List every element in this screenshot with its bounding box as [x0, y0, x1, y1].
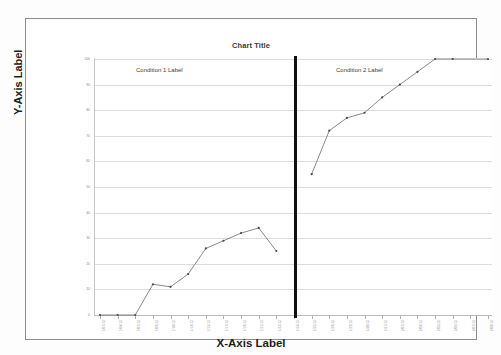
data-point-marker: [275, 250, 277, 252]
data-point-marker: [346, 117, 348, 119]
x-tick-label: 1/15/13: [207, 320, 211, 331]
data-point-marker: [222, 240, 224, 242]
data-point-marker: [187, 273, 189, 275]
x-tick-mark: [241, 316, 242, 319]
x-tick-label: 1/17/13: [225, 320, 229, 331]
data-point-marker: [152, 283, 154, 285]
y-tick-label: 90: [60, 83, 90, 87]
x-tick-label: 1/01/13: [102, 320, 106, 331]
x-tick-mark: [153, 316, 154, 319]
x-tick-mark: [470, 316, 471, 319]
y-tick-label: 70: [60, 134, 90, 138]
y-tick-label: 50: [60, 185, 90, 189]
plot-area: 0102030405060708090100 1/01/131/04/131/0…: [94, 58, 492, 316]
data-point-marker: [99, 314, 101, 316]
chart-page: Chart Title 0102030405060708090100 1/01/…: [0, 0, 501, 355]
x-tick-mark: [223, 316, 224, 319]
x-tick-label: 1/18/13: [243, 320, 247, 331]
x-tick-mark: [400, 316, 401, 319]
x-tick-label: 1/23/13: [278, 320, 282, 331]
x-tick-mark: [171, 316, 172, 319]
x-tick-label: 1/29/13: [349, 320, 353, 331]
x-tick-label: 1/21/13: [260, 320, 264, 331]
x-tick-label: 1/09/13: [155, 320, 159, 331]
x-tick-mark: [100, 316, 101, 319]
data-point-marker: [134, 314, 136, 316]
condition-1-label: Condition 1 Label: [136, 67, 183, 73]
x-tick-label: 2/07/13: [472, 320, 476, 331]
x-tick-mark: [206, 316, 207, 319]
x-tick-mark: [259, 316, 260, 319]
condition-2-label: Condition 2 Label: [336, 67, 383, 73]
y-tick-label: 100: [60, 57, 90, 61]
x-tick-label: 1/25/13: [313, 320, 317, 331]
x-tick-mark: [453, 316, 454, 319]
x-tick-label: 1/28/13: [331, 320, 335, 331]
y-tick-label: 80: [60, 108, 90, 112]
data-point-marker: [169, 286, 171, 288]
x-tick-label: 2/04/13: [419, 320, 423, 331]
x-tick-label: 1/10/13: [172, 320, 176, 331]
x-tick-label: 1/24/13: [296, 320, 300, 331]
data-point-marker: [328, 130, 330, 132]
y-tick-label: 30: [60, 236, 90, 240]
x-tick-mark: [382, 316, 383, 319]
y-tick-label: 40: [60, 211, 90, 215]
data-point-marker: [117, 314, 119, 316]
data-point-marker: [258, 227, 260, 229]
x-tick-mark: [488, 316, 489, 319]
chart-frame: Chart Title 0102030405060708090100 1/01/…: [25, 18, 477, 340]
x-tick-label: 2/01/13: [401, 320, 405, 331]
series-line: [100, 228, 276, 315]
x-tick-label: 1/30/13: [366, 320, 370, 331]
data-point-marker: [434, 58, 436, 60]
x-tick-mark: [329, 316, 330, 319]
data-point-marker: [205, 247, 207, 249]
y-tick-label: 60: [60, 159, 90, 163]
x-tick-label: 1/07/13: [137, 320, 141, 331]
x-tick-mark: [347, 316, 348, 319]
x-tick-label: 2/08/13: [490, 320, 494, 331]
data-point-marker: [381, 96, 383, 98]
chart-title: Chart Title: [26, 41, 476, 50]
x-tick-label: 1/04/13: [119, 320, 123, 331]
series-line: [312, 59, 488, 174]
x-tick-mark: [417, 316, 418, 319]
x-axis-title: X-Axis Label: [26, 337, 476, 349]
data-point-marker: [452, 58, 454, 60]
data-point-marker: [487, 58, 489, 60]
data-point-marker: [399, 84, 401, 86]
y-tick-label: 0: [60, 313, 90, 317]
data-series-group: [94, 58, 492, 316]
x-tick-mark: [312, 316, 313, 319]
phase-change-divider-line: [294, 56, 297, 318]
data-point-marker: [416, 71, 418, 73]
x-tick-mark: [188, 316, 189, 319]
y-tick-label: 10: [60, 287, 90, 291]
y-tick-label: 20: [60, 262, 90, 266]
x-tick-label: 2/06/13: [454, 320, 458, 331]
x-tick-label: 1/14/13: [190, 320, 194, 331]
x-tick-mark: [435, 316, 436, 319]
data-point-marker: [363, 112, 365, 114]
data-point-marker: [240, 232, 242, 234]
x-tick-label: 1/31/13: [384, 320, 388, 331]
x-tick-mark: [276, 316, 277, 319]
x-tick-label: 2/05/13: [437, 320, 441, 331]
data-point-marker: [311, 173, 313, 175]
x-tick-mark: [135, 316, 136, 319]
x-tick-mark: [118, 316, 119, 319]
x-tick-mark: [365, 316, 366, 319]
y-axis-title: Y-Axis Label: [12, 50, 24, 115]
